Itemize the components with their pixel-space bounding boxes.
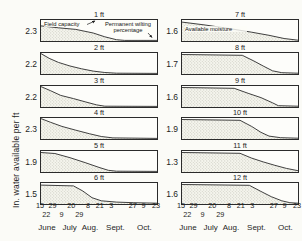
soil-moisture-depletion-figure: In. water available per ft 1 ft2.3Field … (0, 0, 302, 241)
x-month-label: July (62, 223, 76, 232)
panel-10ft: 10 ft1.9 (181, 117, 299, 140)
x-axis-left: 15292082132792322929JuneJulyAug.Sept.Oct… (40, 201, 156, 241)
panel-4ft: 4 ft2.3 (40, 117, 158, 140)
panel-depth-label: 10 ft (233, 108, 247, 117)
panel-value: 1.6 (166, 92, 178, 102)
x-tick-label: 20 (67, 201, 75, 210)
x-tick-label: 29 (189, 201, 197, 210)
x-tick-label: 21 (237, 201, 245, 210)
panel-7ft: 7 ft1.6Available moisture (181, 19, 299, 42)
x-tick-label: 21 (96, 201, 104, 210)
panel-depth-label: 8 ft (235, 43, 245, 52)
panel-value: 1.7 (166, 59, 178, 69)
panel-8ft: 8 ft1.7 (181, 52, 299, 75)
x-tick-label: 8 (227, 201, 231, 210)
x-tick-label: 27 (129, 201, 137, 210)
moisture-area-chart-8ft (182, 53, 298, 74)
x-tick-label: 3 (250, 201, 254, 210)
panel-depth-label: 6 ft (94, 173, 104, 182)
panel-value: 1.9 (166, 124, 178, 134)
panel-depth-label: 4 ft (94, 108, 104, 117)
x-tick-label: 9 (282, 201, 286, 210)
x-month-label: Aug. (82, 223, 98, 232)
moisture-area-chart-3ft (41, 86, 157, 107)
moisture-area-chart-10ft (182, 118, 298, 139)
x-axis-right: 15292082132792322929JuneJulyAug.Sept.Oct… (181, 201, 297, 241)
panel-value: 2.2 (25, 59, 37, 69)
x-month-label: Sept. (247, 223, 266, 232)
x-tick-label: 15 (36, 201, 44, 210)
x-tick-label: 22 (183, 210, 191, 219)
panel-value: 2.2 (25, 92, 37, 102)
panel-value: 2.3 (25, 124, 37, 134)
y-axis-label-area: In. water available per ft (0, 0, 14, 241)
x-tick-label: 8 (86, 201, 90, 210)
panel-value: 1.6 (166, 189, 178, 199)
panel-depth-label: 2 ft (94, 43, 104, 52)
x-month-label: Oct. (278, 223, 293, 232)
x-tick-label: 27 (270, 201, 278, 210)
panel-depth-label: 11 ft (233, 141, 247, 150)
x-tick-label: 20 (208, 201, 216, 210)
x-tick-label: 22 (42, 210, 50, 219)
panel-5ft: 5 ft1.9 (40, 150, 158, 173)
x-month-label: June (179, 223, 196, 232)
panel-2ft: 2 ft2.2 (40, 52, 158, 75)
x-tick-label: 23 (152, 201, 160, 210)
moisture-area-chart-1ft (41, 20, 157, 41)
panel-1ft: 1 ft2.3Field capacityPermanent wilting p… (40, 19, 158, 42)
panel-value: 1.9 (25, 157, 37, 167)
panel-value: 2.3 (25, 26, 37, 36)
x-tick-label: 23 (293, 201, 301, 210)
x-month-label: Sept. (106, 223, 125, 232)
x-month-label: July (203, 223, 217, 232)
panel-depth-label: 1 ft (94, 10, 104, 19)
x-tick-label: 29 (48, 201, 56, 210)
x-tick-label: 9 (200, 210, 204, 219)
y-axis-label: In. water available per ft (11, 113, 21, 208)
moisture-area-chart-2ft (41, 53, 157, 74)
x-tick-label: 9 (141, 201, 145, 210)
x-month-label: Aug. (223, 223, 239, 232)
moisture-area-chart-4ft (41, 118, 157, 139)
panel-depth-label: 9 ft (235, 76, 245, 85)
panel-9ft: 9 ft1.6 (181, 85, 299, 108)
moisture-area-chart-5ft (41, 151, 157, 172)
moisture-area-chart-7ft (182, 20, 298, 41)
x-tick-label: 29 (216, 210, 224, 219)
x-tick-label: 29 (75, 210, 83, 219)
x-month-label: June (38, 223, 55, 232)
moisture-area-chart-11ft (182, 151, 298, 172)
panel-11ft: 11 ft1.3 (181, 150, 299, 173)
moisture-area-chart-9ft (182, 86, 298, 107)
x-tick-label: 3 (109, 201, 113, 210)
x-month-label: Oct. (137, 223, 152, 232)
panel-value: 1.6 (166, 26, 178, 36)
panel-depth-label: 7 ft (235, 10, 245, 19)
panel-depth-label: 3 ft (94, 76, 104, 85)
panel-depth-label: 5 ft (94, 141, 104, 150)
panel-value: 1.3 (166, 157, 178, 167)
panel-value: 1.5 (25, 189, 37, 199)
panel-3ft: 3 ft2.2 (40, 85, 158, 108)
x-tick-label: 15 (177, 201, 185, 210)
panel-depth-label: 12 ft (233, 173, 247, 182)
x-tick-label: 9 (59, 210, 63, 219)
